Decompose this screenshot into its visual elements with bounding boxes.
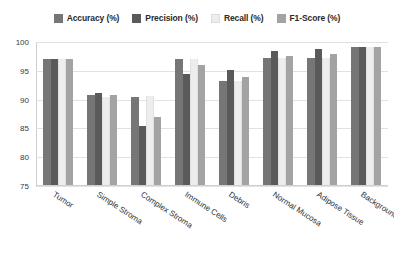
legend-swatch-icon [277, 14, 286, 23]
bar[interactable] [234, 81, 242, 186]
x-axis-tick-cell: Normal Mucosa [256, 188, 300, 258]
bar[interactable] [242, 77, 250, 186]
y-axis-tick: 75 [20, 182, 29, 191]
bar-group [124, 42, 168, 186]
legend-entry[interactable]: F1-Score (%) [277, 13, 341, 23]
y-axis-tick-labels: 7580859095100 [0, 42, 34, 186]
x-axis-tick-cell: Tumor [36, 188, 80, 258]
bar[interactable] [198, 65, 206, 186]
x-axis-tick-labels: TumorSimple StromaComplex StromaImmune C… [36, 188, 388, 258]
legend-swatch-icon [132, 14, 141, 23]
plot-area [36, 42, 388, 186]
bar[interactable] [315, 49, 323, 186]
bar[interactable] [95, 93, 103, 186]
x-axis-tick: Background [359, 190, 394, 221]
x-axis-tick-cell: Simple Stroma [80, 188, 124, 258]
x-axis-line [36, 185, 388, 186]
bar[interactable] [330, 54, 338, 186]
x-axis-tick-cell: Immune Cells [168, 188, 212, 258]
x-axis-tick-cell: Complex Stroma [124, 188, 168, 258]
y-axis-tick: 95 [20, 66, 29, 75]
bar[interactable] [131, 97, 139, 186]
bar[interactable] [66, 59, 74, 186]
bar[interactable] [351, 47, 359, 186]
legend-swatch-icon [211, 14, 220, 23]
legend-label: Precision (%) [145, 13, 198, 23]
x-axis-tick-cell: Background [344, 188, 388, 258]
bar[interactable] [359, 47, 367, 186]
bar[interactable] [51, 59, 59, 186]
bar[interactable] [374, 47, 382, 186]
chart-legend: Accuracy (%)Precision (%)Recall (%)F1-Sc… [0, 8, 394, 28]
bar[interactable] [227, 70, 235, 186]
y-axis-tick: 85 [20, 124, 29, 133]
bar[interactable] [102, 97, 110, 186]
bar[interactable] [110, 95, 118, 186]
bar[interactable] [175, 59, 183, 186]
y-axis-tick: 80 [20, 153, 29, 162]
bar[interactable] [278, 58, 286, 186]
bar[interactable] [139, 126, 147, 186]
bar[interactable] [307, 58, 315, 186]
gridline [36, 186, 388, 187]
legend-entry[interactable]: Accuracy (%) [54, 13, 120, 23]
bar-group [212, 42, 256, 186]
legend-label: Accuracy (%) [67, 13, 120, 23]
bar[interactable] [286, 56, 294, 186]
bar-chart: Accuracy (%)Precision (%)Recall (%)F1-Sc… [0, 0, 394, 261]
bar[interactable] [190, 59, 198, 186]
x-axis-tick-cell: Adipose Tissue [300, 188, 344, 258]
legend-entry[interactable]: Precision (%) [132, 13, 198, 23]
bar[interactable] [43, 59, 51, 186]
bar-group [300, 42, 344, 186]
y-axis-tick: 90 [20, 95, 29, 104]
x-axis-tick-cell: Debris [212, 188, 256, 258]
legend-entry[interactable]: Recall (%) [211, 13, 264, 23]
bar[interactable] [146, 96, 154, 186]
bar[interactable] [366, 47, 374, 186]
x-axis-tick: Debris [227, 190, 251, 210]
bar-group [168, 42, 212, 186]
bar[interactable] [322, 58, 330, 186]
bar[interactable] [271, 51, 279, 186]
bar[interactable] [219, 81, 227, 186]
bar[interactable] [183, 74, 191, 186]
y-axis-tick: 100 [16, 38, 29, 47]
legend-swatch-icon [54, 14, 63, 23]
bar-group [80, 42, 124, 186]
x-axis-tick: Tumor [51, 190, 75, 210]
legend-label: Recall (%) [224, 13, 264, 23]
bar-group [256, 42, 300, 186]
legend-label: F1-Score (%) [290, 13, 341, 23]
bar[interactable] [58, 59, 66, 186]
bar[interactable] [87, 95, 95, 186]
bars-layer [36, 42, 388, 186]
bar[interactable] [263, 58, 271, 186]
bar[interactable] [154, 117, 162, 186]
bar-group [36, 42, 80, 186]
bar-group [344, 42, 388, 186]
